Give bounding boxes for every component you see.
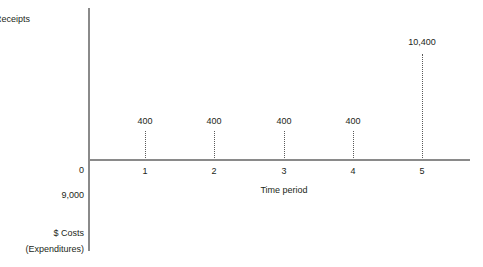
cash-flow-amount-label: 400 — [137, 116, 152, 127]
x-tick-label: 3 — [281, 166, 286, 177]
x-tick-label: 4 — [350, 166, 355, 177]
time-period-axis-label: Time period — [260, 185, 307, 196]
costs-axis-label: $ Costs — [53, 228, 84, 239]
cash-flow-arrow — [145, 131, 147, 158]
x-tick-label: 1 — [142, 166, 147, 177]
cash-flow-arrow — [353, 131, 355, 158]
cost-value-label: 9,000 — [61, 190, 84, 201]
cash-flow-arrow — [422, 54, 424, 158]
cash-flow-arrow — [214, 131, 216, 158]
expenditures-axis-label: (Expenditures) — [25, 244, 84, 255]
cash-flow-diagram: $ Receipts 0 9,000 $ Costs (Expenditures… — [0, 0, 483, 267]
cash-flow-amount-label: 10,400 — [408, 37, 436, 48]
horizontal-axis-line — [88, 159, 470, 161]
cash-flow-amount-label: 400 — [345, 116, 360, 127]
receipts-axis-label: $ Receipts — [0, 14, 30, 25]
x-tick-label: 2 — [211, 166, 216, 177]
cash-flow-arrow — [284, 131, 286, 158]
vertical-axis-line — [88, 8, 90, 251]
cash-flow-amount-label: 400 — [276, 116, 291, 127]
x-tick-label: 5 — [419, 166, 424, 177]
origin-label: 0 — [79, 165, 84, 176]
cash-flow-amount-label: 400 — [206, 116, 221, 127]
